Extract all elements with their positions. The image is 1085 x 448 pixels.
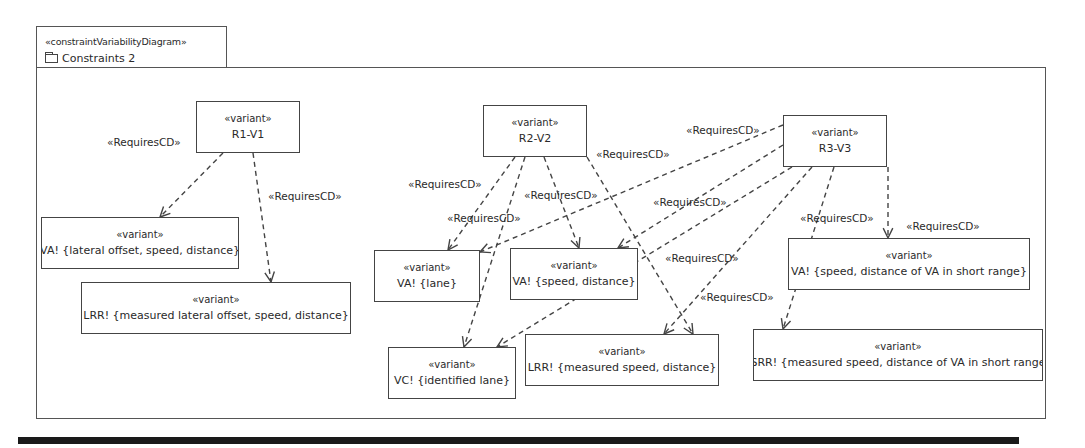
edge-label: «RequiresCD» xyxy=(596,148,670,160)
node-label: VA! {speed, distance} xyxy=(512,274,635,290)
variant-node-va1[interactable]: «variant»VA! {lateral offset, speed, dis… xyxy=(41,217,239,269)
edge-label: «RequiresCD» xyxy=(800,212,874,224)
node-stereotype: «variant» xyxy=(116,227,163,243)
edge-label: «RequiresCD» xyxy=(686,124,760,136)
bottom-rule xyxy=(18,437,1019,444)
node-label: R2-V2 xyxy=(519,131,552,147)
variant-node-va2[interactable]: «variant»VA! {lane} xyxy=(374,250,480,302)
node-label: SRR! {measured speed, distance of VA in … xyxy=(753,355,1043,371)
variant-node-lrr1[interactable]: «variant»LRR! {measured lateral offset, … xyxy=(81,282,351,334)
variant-node-r2v2[interactable]: «variant»R2-V2 xyxy=(483,105,587,157)
node-stereotype: «variant» xyxy=(511,115,558,131)
edge-label: «RequiresCD» xyxy=(653,196,727,208)
variant-node-r3v3[interactable]: «variant»R3-V3 xyxy=(783,115,887,167)
requires-cd-edge-r1v1-lrr1[interactable] xyxy=(253,153,274,282)
node-stereotype: «variant» xyxy=(403,260,450,276)
edge-label: «RequiresCD» xyxy=(107,136,181,148)
node-label: R3-V3 xyxy=(819,141,852,157)
variant-node-srr1[interactable]: «variant»SRR! {measured speed, distance … xyxy=(753,329,1043,381)
variant-node-r1v1[interactable]: «variant»R1-V1 xyxy=(196,101,300,153)
node-stereotype: «variant» xyxy=(192,292,239,308)
open-arrowhead-icon xyxy=(497,338,508,347)
node-label: VA! {speed, distance of VA in short rang… xyxy=(791,264,1027,280)
edge-label: «RequiresCD» xyxy=(700,291,774,303)
node-stereotype: «variant» xyxy=(550,258,597,274)
variant-node-va3[interactable]: «variant»VA! {speed, distance} xyxy=(510,248,638,300)
open-arrowhead-icon xyxy=(684,323,693,334)
node-stereotype: «variant» xyxy=(598,344,645,360)
node-stereotype: «variant» xyxy=(811,125,858,141)
node-stereotype: «variant» xyxy=(428,357,475,373)
open-arrowhead-icon xyxy=(781,318,790,329)
variant-node-lrr2[interactable]: «variant»LRR! {measured speed, distance} xyxy=(525,334,719,386)
node-label: LRR! {measured lateral offset, speed, di… xyxy=(83,308,348,324)
requires-cd-edge-r2v2-lrr2[interactable] xyxy=(587,157,693,334)
node-label: LRR! {measured speed, distance} xyxy=(528,360,717,376)
open-arrowhead-icon xyxy=(571,237,580,248)
node-label: R1-V1 xyxy=(232,127,265,143)
variant-node-vc1[interactable]: «variant»VC! {identified lane} xyxy=(388,347,516,399)
edge-label: «RequiresCD» xyxy=(906,220,980,232)
requires-cd-edge-r1v1-va1[interactable] xyxy=(160,153,223,217)
node-stereotype: «variant» xyxy=(874,339,921,355)
node-label: VC! {identified lane} xyxy=(394,373,510,389)
requires-cd-edge-r3v3-va4[interactable] xyxy=(883,167,893,238)
requires-cd-edge-r2v2-va2[interactable] xyxy=(448,157,515,250)
edge-label: «RequiresCD» xyxy=(447,212,521,224)
edge-label: «RequiresCD» xyxy=(665,252,739,264)
node-stereotype: «variant» xyxy=(885,248,932,264)
variant-node-va4[interactable]: «variant»VA! {speed, distance of VA in s… xyxy=(788,238,1030,290)
edge-label: «RequiresCD» xyxy=(524,189,598,201)
open-arrowhead-icon xyxy=(618,239,629,248)
edge-label: «RequiresCD» xyxy=(268,190,342,202)
node-stereotype: «variant» xyxy=(224,111,271,127)
requires-cd-edge-r2v2-va3[interactable] xyxy=(544,157,580,248)
node-label: VA! {lateral offset, speed, distance} xyxy=(41,243,239,259)
node-label: VA! {lane} xyxy=(397,276,457,292)
edge-label: «RequiresCD» xyxy=(408,178,482,190)
